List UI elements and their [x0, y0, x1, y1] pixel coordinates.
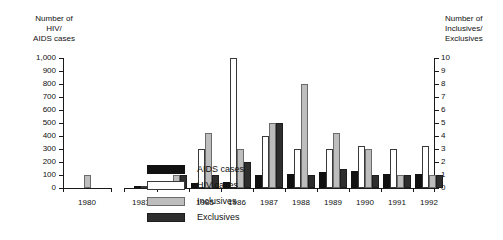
x-tick-mark	[253, 188, 254, 192]
bar-hiv-1989	[326, 149, 333, 188]
right-tick-label: 4	[441, 132, 469, 140]
x-tick-mark	[124, 188, 125, 192]
bar-aids-1991	[383, 174, 390, 188]
left-tick-label: 900	[16, 67, 63, 75]
right-tick-mark	[435, 188, 439, 189]
bar-exclusive-1990	[372, 175, 379, 188]
legend-label-aids: AIDS cases	[197, 163, 244, 175]
right-tick-mark	[435, 110, 439, 111]
legend-swatch-exclusive	[147, 213, 185, 222]
bar-hiv-1988	[294, 149, 301, 188]
x-axis-year-label: 1992	[409, 198, 449, 207]
right-tick-mark	[435, 136, 439, 137]
legend-label-hiv: HIV cases	[197, 179, 238, 191]
bar-exclusive-1988	[308, 175, 315, 188]
x-tick-mark	[381, 188, 382, 192]
bar-inclusive-1991	[397, 175, 404, 188]
bar-exclusive-1992	[436, 175, 443, 188]
legend-label-exclusive: Exclusives	[197, 211, 240, 223]
right-tick-label: 5	[441, 119, 469, 127]
bar-hiv-1992	[422, 146, 429, 188]
bar-aids-1989	[319, 172, 326, 188]
right-tick-mark	[435, 71, 439, 72]
right-tick-label: 3	[441, 145, 469, 153]
x-tick-mark	[434, 188, 435, 192]
left-axis-title: Number of HIV/ AIDS cases	[8, 14, 100, 44]
left-tick-label: 400	[16, 132, 63, 140]
bar-hiv-1987	[262, 136, 269, 188]
legend-swatch-aids	[147, 165, 185, 174]
legend-label-inclusive: Inclusives	[197, 195, 237, 207]
left-tick-label: 200	[16, 158, 63, 166]
left-tick-label: 600	[16, 106, 63, 114]
bar-exclusive-1987	[276, 123, 283, 188]
chart-figure: Number of HIV/ AIDS cases Number of Incl…	[0, 0, 503, 240]
bar-aids-1992	[415, 174, 422, 188]
right-tick-label: 2	[441, 158, 469, 166]
x-axis-baseline-segment-1	[63, 188, 111, 189]
left-tick-label: 800	[16, 80, 63, 88]
right-tick-mark	[435, 97, 439, 98]
x-tick-mark	[349, 188, 350, 192]
bar-inclusive-1990	[365, 149, 372, 188]
right-tick-mark	[435, 58, 439, 59]
bar-inclusive-1987	[269, 123, 276, 188]
right-tick-label: 1	[441, 171, 469, 179]
x-tick-mark	[317, 188, 318, 192]
right-tick-label: 9	[441, 67, 469, 75]
bar-inclusive-1992	[429, 175, 436, 188]
bar-exclusive-1986	[244, 162, 251, 188]
x-tick-mark	[189, 188, 190, 192]
bar-aids-1988	[287, 174, 294, 188]
right-tick-label: 10	[441, 54, 469, 62]
bar-inclusive-1989	[333, 133, 340, 188]
right-tick-label: 0	[441, 184, 469, 192]
left-tick-label: 500	[16, 119, 63, 127]
right-tick-mark	[435, 123, 439, 124]
left-tick-label: 700	[16, 93, 63, 101]
right-axis-title: Number of Inclusives/ Exclusives	[445, 14, 503, 44]
right-tick-label: 8	[441, 80, 469, 88]
plot-area: 01002003004005006007008009001,000 012345…	[63, 58, 435, 188]
x-tick-mark	[63, 188, 64, 192]
bar-hiv-1991	[390, 149, 397, 188]
left-tick-label: 0	[16, 184, 63, 192]
bar-inclusive-1988	[301, 84, 308, 188]
bar-aids-1983	[134, 186, 141, 188]
bar-aids-1987	[255, 175, 262, 188]
bar-exclusive-1989	[340, 169, 347, 189]
x-tick-mark	[285, 188, 286, 192]
bar-aids-1990	[351, 171, 358, 188]
legend-swatch-inclusive	[147, 197, 185, 206]
right-tick-mark	[435, 149, 439, 150]
bar-inclusive-1980	[84, 175, 91, 188]
bar-hiv-1990	[358, 146, 365, 188]
legend-swatch-hiv	[147, 181, 185, 190]
x-tick-mark	[413, 188, 414, 192]
right-tick-mark	[435, 84, 439, 85]
bar-series-container	[63, 58, 435, 188]
right-tick-mark	[435, 162, 439, 163]
x-axis-year-label: 1980	[67, 198, 107, 207]
right-tick-label: 6	[441, 106, 469, 114]
bar-exclusive-1991	[404, 175, 411, 188]
right-tick-label: 7	[441, 93, 469, 101]
left-tick-label: 1,000	[16, 54, 63, 62]
x-tick-mark	[111, 188, 112, 192]
left-tick-label: 300	[16, 145, 63, 153]
left-tick-label: 100	[16, 171, 63, 179]
